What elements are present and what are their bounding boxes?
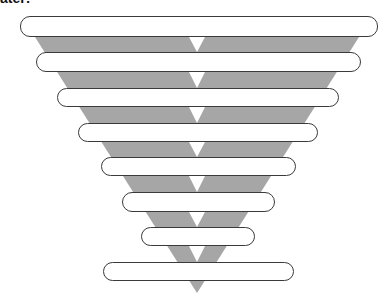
funnel-stage-6 xyxy=(122,192,275,212)
funnel-stage-1 xyxy=(20,16,378,37)
funnel-stage-2 xyxy=(36,52,361,72)
funnel-stage-3 xyxy=(57,88,339,107)
funnel-stage-5 xyxy=(101,157,296,176)
funnel-stage-8 xyxy=(103,262,294,281)
funnel-stage-7 xyxy=(141,227,255,246)
funnel-stage-4 xyxy=(78,123,318,142)
funnel-shape xyxy=(0,0,386,300)
